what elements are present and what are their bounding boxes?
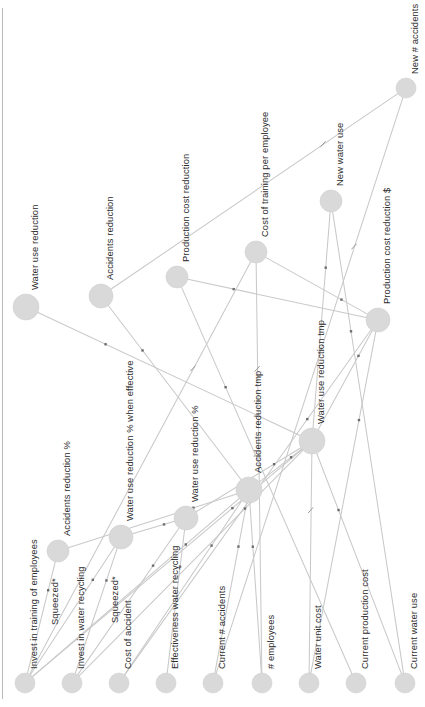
nodes-layer bbox=[13, 78, 416, 693]
edge-accidents-reduction-tmp-to-water-use-reduction-tmp bbox=[258, 448, 302, 482]
edge-asterisk-marker bbox=[179, 565, 181, 567]
node-production-cost-reduction[interactable] bbox=[166, 266, 188, 288]
edge-water-use-reduction-tmp-to-new-water-use bbox=[313, 211, 330, 429]
edge-invest-in-training-of-employees-to-accidents-reduction-tmp bbox=[32, 498, 240, 677]
node-water-unit-cost[interactable] bbox=[299, 673, 319, 693]
edge-water-use-reduction-pct-when-effective-to-water-use-reduction-pct bbox=[132, 521, 176, 534]
graph-svg bbox=[0, 0, 425, 707]
edge-water-use-reduction-tmp-to-production-cost-reduction-dollar bbox=[318, 330, 373, 431]
edge-asterisk-marker bbox=[252, 546, 254, 548]
edge-current-water-use-to-water-use-reduction-tmp bbox=[316, 452, 401, 674]
edge-asterisk-marker bbox=[224, 386, 226, 388]
edge-asterisk-marker bbox=[358, 419, 360, 421]
edge-asterisk-marker bbox=[233, 288, 235, 290]
node-invest-in-training-of-employees[interactable] bbox=[15, 673, 35, 693]
edge-asterisk-marker bbox=[105, 579, 107, 581]
edge-asterisk-marker bbox=[210, 544, 212, 546]
edge-marks-layer bbox=[47, 141, 360, 591]
node-new-water-use[interactable] bbox=[320, 190, 342, 212]
node-accidents-reduction-pct[interactable] bbox=[47, 540, 69, 562]
node-current-water-use[interactable] bbox=[395, 673, 415, 693]
diagram-canvas: Water use reductionAccidents reductionPr… bbox=[0, 0, 425, 707]
edge-current-water-use-to-new-water-use bbox=[333, 211, 404, 674]
node-accidents-reduction[interactable] bbox=[89, 284, 113, 308]
edge-asterisk-marker bbox=[231, 507, 233, 509]
edge-asterisk-marker bbox=[337, 509, 339, 511]
node-accidents-reduction-tmp[interactable] bbox=[236, 477, 262, 503]
edge-water-use-reduction-tmp-to-water-use-reduction bbox=[37, 312, 301, 436]
edge-effectiveness-water-recycling-to-water-use-reduction-pct bbox=[167, 529, 185, 674]
edge-accidents-reduction-tmp-to-accidents-reduction bbox=[108, 305, 242, 481]
edge-asterisk-marker bbox=[163, 523, 165, 525]
edge-asterisk-marker bbox=[104, 343, 106, 345]
node-current-production-cost[interactable] bbox=[346, 673, 366, 693]
edge-asterisk-marker bbox=[357, 355, 359, 357]
edge-water-unit-cost-to-production-cost-reduction-dollar bbox=[311, 331, 376, 674]
edge-asterisk-marker bbox=[244, 507, 246, 509]
node-water-use-reduction-pct[interactable] bbox=[174, 506, 198, 530]
edge-asterisk-marker bbox=[306, 418, 308, 420]
node-current-number-accidents[interactable] bbox=[203, 673, 223, 693]
node-water-use-reduction-pct-when-effective[interactable] bbox=[109, 525, 133, 549]
edge-asterisk-marker bbox=[185, 543, 187, 545]
edge-asterisk-marker bbox=[290, 456, 292, 458]
edge-cost-of-training-per-employee-to-production-cost-reduction-dollar bbox=[265, 257, 369, 315]
node-cost-of-training-per-employee[interactable] bbox=[245, 241, 267, 263]
edge-asterisk-marker bbox=[325, 266, 327, 268]
edge-water-unit-cost-to-water-use-reduction-tmp bbox=[309, 453, 312, 674]
edge-asterisk-marker bbox=[237, 545, 239, 547]
edge-asterisk-marker bbox=[152, 564, 154, 566]
node-production-cost-reduction-dollar[interactable] bbox=[366, 308, 390, 332]
edge-invest-in-training-of-employees-to-cost-of-training-per-employee bbox=[29, 261, 251, 675]
edge-asterisk-marker bbox=[350, 330, 352, 332]
node-water-use-reduction[interactable] bbox=[13, 294, 39, 320]
node-cost-of-accident[interactable] bbox=[109, 673, 129, 693]
edge-current-number-accidents-to-accidents-reduction-tmp bbox=[215, 502, 247, 674]
edge-asterisk-marker bbox=[340, 298, 342, 300]
edge-asterisk-marker bbox=[273, 463, 275, 465]
edge-current-number-accidents-to-new-number-accidents bbox=[216, 97, 403, 675]
edges-layer bbox=[27, 93, 403, 677]
node-number-employees[interactable] bbox=[252, 673, 272, 693]
edge-asterisk-marker bbox=[92, 579, 94, 581]
edge-asterisk-marker bbox=[47, 589, 49, 591]
edge-asterisk-marker bbox=[141, 349, 143, 351]
node-invest-in-water-recycling[interactable] bbox=[62, 673, 82, 693]
node-water-use-reduction-tmp[interactable] bbox=[299, 428, 325, 454]
node-new-number-accidents[interactable] bbox=[396, 78, 416, 98]
node-effectiveness-water-recycling[interactable] bbox=[156, 673, 176, 693]
edge-invest-in-water-recycling-to-water-use-reduction-pct bbox=[77, 527, 180, 676]
